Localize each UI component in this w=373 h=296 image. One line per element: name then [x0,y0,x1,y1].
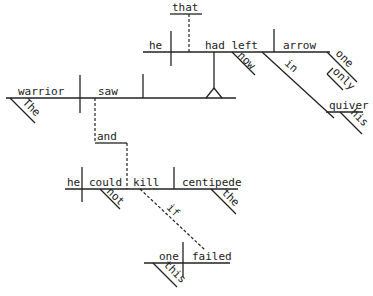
word-only: only [330,65,358,93]
word-had-left: had left [205,39,258,52]
word-failed: failed [192,250,232,263]
pedestal-left [206,88,214,98]
word-this: this [161,258,189,286]
word-kill: kill [133,176,160,189]
word-quiver: quiver [329,99,369,112]
if-connector [140,189,205,250]
sentence-diagram: warrior The saw he had left arrow that n… [0,0,373,296]
word-and: and [97,130,117,143]
word-he-2: he [67,176,80,189]
pedestal-right [214,88,222,98]
word-the-1: The [20,96,43,119]
word-arrow: arrow [283,39,316,52]
diagram-svg: warrior The saw he had left arrow that n… [0,0,373,296]
word-centipede: centipede [182,176,242,189]
word-he-1: he [149,39,162,52]
word-that: that [172,1,199,14]
word-if: if [164,201,183,220]
word-warrior: warrior [18,85,65,98]
word-saw: saw [98,85,118,98]
word-could: could [89,176,122,189]
